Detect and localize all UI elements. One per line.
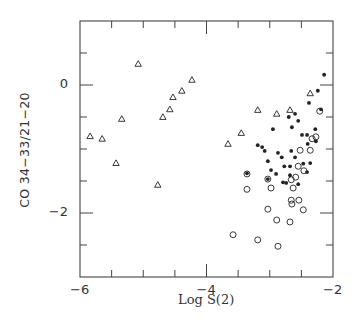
filled-circle-marker xyxy=(281,180,285,184)
triangles-series xyxy=(87,61,314,188)
filled-circle-marker xyxy=(293,155,297,159)
triangle-marker xyxy=(225,141,231,147)
open-circle-marker xyxy=(290,185,296,191)
filled-circle-marker xyxy=(269,168,273,172)
y-tick-label: −2 xyxy=(49,204,68,219)
triangle-marker xyxy=(87,133,93,139)
filled-circle-marker xyxy=(306,142,310,146)
filled-circle-marker xyxy=(263,149,267,153)
triangle-marker xyxy=(307,90,313,96)
triangle-marker xyxy=(255,107,261,113)
triangle-marker xyxy=(155,182,161,188)
filled-circle-marker xyxy=(289,149,293,153)
x-tick-label: −2 xyxy=(323,282,342,297)
open-circle-marker xyxy=(288,177,294,183)
open-circle-marker xyxy=(307,147,313,153)
data-points xyxy=(87,61,326,250)
open-circle-marker xyxy=(274,217,280,223)
filled-circle-marker xyxy=(266,177,270,181)
open-circle-marker xyxy=(230,232,236,238)
triangle-marker xyxy=(113,160,119,166)
filled-circle-marker xyxy=(293,112,297,116)
triangle-marker xyxy=(119,116,125,122)
open-circle-marker xyxy=(265,206,271,212)
triangle-marker xyxy=(179,88,185,94)
open-circles-series xyxy=(230,108,323,249)
x-tick-label: −6 xyxy=(70,282,89,297)
y-axis-label: CO 34−33/21−20 xyxy=(17,92,32,208)
x-tick-label: −4 xyxy=(197,282,216,297)
open-circle-marker xyxy=(244,186,250,192)
open-circle-marker xyxy=(275,243,281,249)
open-circle-marker xyxy=(255,237,261,243)
filled-circle-marker xyxy=(305,133,309,137)
triangle-marker xyxy=(238,130,244,136)
filled-circle-marker xyxy=(296,119,300,123)
open-circle-marker xyxy=(300,207,306,213)
plot-border xyxy=(80,21,333,277)
triangle-marker xyxy=(99,136,105,142)
triangle-marker xyxy=(135,61,141,67)
filled-circle-marker xyxy=(290,125,294,129)
plot-frame xyxy=(80,21,333,277)
scatter-plot xyxy=(0,0,359,328)
filled-circles-series xyxy=(245,73,326,186)
triangle-marker xyxy=(287,107,293,113)
filled-circle-marker xyxy=(274,172,278,176)
filled-circle-marker xyxy=(266,159,270,163)
open-circle-marker xyxy=(287,219,293,225)
filled-circle-marker xyxy=(288,164,292,168)
triangle-marker xyxy=(160,114,166,120)
filled-circle-marker xyxy=(284,181,288,185)
filled-circle-marker xyxy=(271,127,275,131)
filled-circle-marker xyxy=(308,161,312,165)
triangle-marker xyxy=(189,77,195,83)
filled-circle-marker xyxy=(256,143,260,147)
filled-circle-marker xyxy=(287,115,291,119)
triangle-marker xyxy=(167,106,173,112)
triangle-marker xyxy=(170,94,176,100)
y-tick-label: 0 xyxy=(60,76,68,91)
filled-circle-marker xyxy=(245,171,249,175)
open-circle-marker xyxy=(289,201,295,207)
axis-ticks xyxy=(80,21,333,277)
filled-circle-marker xyxy=(300,133,304,137)
open-circle-marker xyxy=(268,185,274,191)
filled-circle-marker xyxy=(322,73,326,77)
open-circle-marker xyxy=(296,197,302,203)
open-circle-marker xyxy=(295,163,301,169)
filled-circle-marker xyxy=(307,101,311,105)
filled-circle-marker xyxy=(260,145,264,149)
filled-circle-marker xyxy=(301,162,305,166)
triangle-marker xyxy=(274,111,280,117)
open-circle-marker xyxy=(297,147,303,153)
filled-circle-marker xyxy=(282,164,286,168)
filled-circle-marker xyxy=(313,127,317,131)
open-circle-marker xyxy=(293,174,299,180)
filled-circle-marker xyxy=(296,182,300,186)
filled-circle-marker xyxy=(316,89,320,93)
filled-circle-marker xyxy=(276,151,280,155)
filled-circle-marker xyxy=(280,155,284,159)
